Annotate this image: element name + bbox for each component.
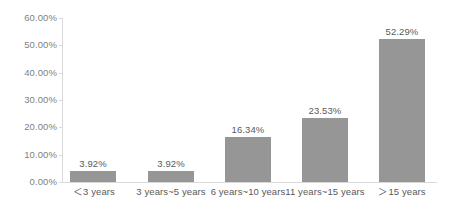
x-axis-line	[62, 182, 437, 183]
bar-group: 3.92%	[70, 18, 116, 182]
bar[interactable]	[302, 118, 348, 182]
y-axis-tick-label: 60.00%	[0, 13, 57, 23]
bar[interactable]	[379, 39, 425, 182]
bar-group: 16.34%	[225, 18, 271, 182]
plot-area: 3.92% 3.92% 16.34% 23.53% 52.29%	[62, 18, 437, 182]
bar-value-label: 23.53%	[309, 105, 342, 116]
bar-value-label: 3.92%	[79, 158, 106, 169]
y-axis-tick-label: 30.00%	[0, 95, 57, 105]
y-axis-tick-label: 50.00%	[0, 40, 57, 50]
bar-value-label: 16.34%	[232, 124, 265, 135]
bar[interactable]	[225, 137, 271, 182]
bar-group: 23.53%	[302, 18, 348, 182]
x-axis-category-label: ＞15 years	[356, 186, 448, 198]
bar-group: 52.29%	[379, 18, 425, 182]
y-axis-tick-label: 10.00%	[0, 150, 57, 160]
x-axis-category-labels: ＜3 years 3 years~5 years 6 years~10 year…	[62, 186, 437, 210]
bar-group: 3.92%	[148, 18, 194, 182]
y-axis-tick-label: 40.00%	[0, 68, 57, 78]
bar-value-label: 3.92%	[157, 158, 184, 169]
bar[interactable]	[70, 171, 116, 182]
bar-chart: 60.00% 50.00% 40.00% 30.00% 20.00% 10.00…	[0, 0, 450, 220]
y-axis-tick-label: 20.00%	[0, 122, 57, 132]
bar-value-label: 52.29%	[386, 26, 419, 37]
bar[interactable]	[148, 171, 194, 182]
